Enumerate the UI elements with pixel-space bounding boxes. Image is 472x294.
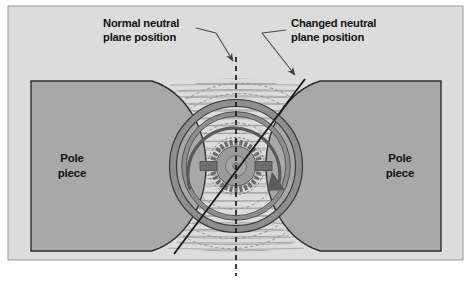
diagram-canvas: Pole piece Pole piece: [0, 0, 472, 294]
right-pole-piece-label-line2: piece: [386, 167, 415, 179]
right-pole-piece-label-line1: Pole: [388, 152, 412, 164]
callout-normal-line1: Normal neutral: [103, 17, 179, 29]
callout-normal-line2: plane position: [103, 31, 176, 43]
brush-right: [255, 162, 272, 171]
left-pole-piece-label-line1: Pole: [60, 152, 84, 164]
callout-changed-line2: plane position: [291, 31, 364, 43]
brush-left: [200, 162, 217, 171]
armature-reaction-diagram: Pole piece Pole piece: [0, 0, 472, 294]
left-pole-piece-label-line2: piece: [58, 167, 87, 179]
callout-changed-line1: Changed neutral: [291, 17, 376, 29]
right-pole-piece: Pole piece: [266, 81, 441, 251]
left-pole-piece: Pole piece: [31, 81, 206, 251]
